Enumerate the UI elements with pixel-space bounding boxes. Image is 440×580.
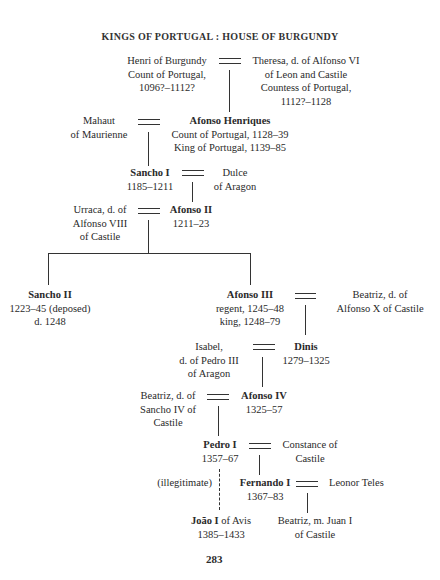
diagram-title: KINGS OF PORTUGAL : HOUSE OF BURGUNDY — [0, 31, 440, 42]
illegitimate-descent-line — [219, 469, 220, 510]
person-leonor-teles: Leonor Teles — [329, 476, 399, 490]
person-afonso-iii: Afonso III regent, 1245–48 king, 1248–79 — [210, 288, 290, 329]
person-afonso-iv: Afonso IV 1325–57 — [234, 389, 294, 416]
person-pedro-i: Pedro I 1357–67 — [200, 438, 240, 465]
marriage-symbol — [249, 443, 271, 449]
person-urraca: Urraca, d. of Alfonso VIII of Castile — [68, 203, 132, 244]
person-sancho-ii: Sancho II 1223–45 (deposed) d. 1248 — [4, 288, 96, 329]
marriage-symbol — [253, 344, 275, 350]
person-afonso-henriques: Afonso Henriques Count of Portugal, 1128… — [166, 114, 294, 155]
page-number: 283 — [206, 553, 223, 565]
person-joao-i: João I of Avis 1385–1433 — [186, 514, 256, 541]
descent-line — [259, 455, 260, 475]
descent-line — [262, 357, 263, 387]
person-beatriz-sancho-iv: Beatriz, d. of Sancho IV of Castile — [136, 389, 200, 430]
marriage-symbol — [219, 58, 241, 64]
marriage-symbol — [138, 119, 160, 125]
descent-line — [305, 305, 306, 335]
person-henri-of-burgundy: Henri of Burgundy Count of Portugal, 109… — [118, 54, 216, 95]
illegitimate-label: (illegitimate) — [148, 476, 212, 490]
person-beatriz-alfonso-x: Beatriz, d. of Alfonso X of Castile — [330, 288, 430, 315]
marriage-symbol — [182, 170, 204, 176]
marriage-symbol — [138, 208, 160, 214]
person-afonso-ii: Afonso II 1211–23 — [166, 203, 216, 230]
person-dinis: Dinis 1279–1325 — [280, 340, 332, 367]
person-beatriz-juan-i: Beatriz, m. Juan I of Castile — [274, 514, 356, 541]
person-theresa: Theresa, d. of Alfonso VI of Leon and Ca… — [248, 54, 364, 108]
person-constance: Constance of Castile — [278, 438, 342, 465]
descent-line — [148, 220, 149, 254]
descent-line — [250, 253, 251, 285]
person-dulce: Dulce of Aragon — [210, 166, 260, 193]
person-sancho-i: Sancho I 1185–1211 — [122, 166, 178, 193]
descent-line — [218, 406, 219, 436]
descent-line — [192, 182, 193, 202]
descent-line — [229, 70, 230, 112]
descent-line — [148, 132, 149, 166]
marriage-symbol — [295, 293, 316, 299]
descent-line — [48, 253, 49, 285]
person-isabel: Isabel, d. of Pedro III of Aragon — [172, 340, 246, 381]
person-fernando-i: Fernando I 1367–83 — [234, 476, 296, 503]
marriage-symbol — [296, 481, 318, 487]
sibling-bar — [48, 253, 251, 254]
descent-line — [307, 493, 308, 513]
marriage-symbol — [207, 394, 229, 400]
person-mahaut: Mahaut of Maurienne — [66, 114, 132, 141]
